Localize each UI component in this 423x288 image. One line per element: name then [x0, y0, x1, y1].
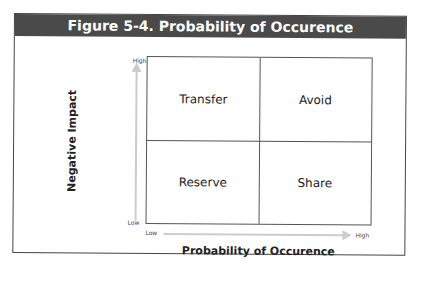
x-high-label: High: [355, 231, 369, 238]
quadrant-transfer: Transfer: [147, 57, 260, 141]
x-low-label: Low: [145, 229, 157, 236]
quadrant-share: Share: [259, 141, 372, 225]
y-low-label: Low: [128, 219, 140, 226]
y-axis-label: Negative Impact: [65, 81, 79, 201]
x-arrow-icon: [163, 233, 343, 236]
y-arrow-icon: [135, 71, 138, 221]
quadrant-reserve: Reserve: [147, 140, 260, 224]
quadrant-avoid: Avoid: [259, 58, 372, 142]
quadrant-grid: Transfer Avoid Reserve Share: [146, 56, 373, 226]
x-axis-label: Probability of Occurence: [145, 244, 371, 259]
figure-frame: Figure 5-4. Probability of Occurence Tra…: [12, 13, 407, 256]
figure-title: Figure 5-4. Probability of Occurence: [15, 14, 406, 39]
